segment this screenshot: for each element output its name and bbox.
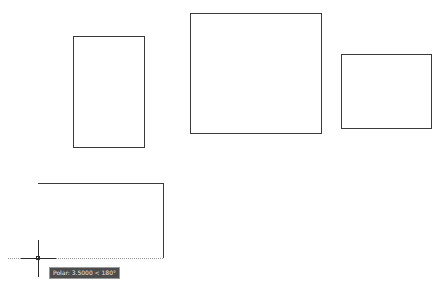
polyline-segment-right[interactable]	[163, 183, 164, 258]
rectangle-3[interactable]	[341, 54, 432, 129]
polyline-segment-top[interactable]	[38, 183, 164, 184]
rectangle-2[interactable]	[190, 13, 322, 134]
rectangle-1[interactable]	[73, 36, 145, 148]
drawing-canvas[interactable]: Polar: 3.5000 < 180°	[0, 0, 437, 290]
polar-tooltip: Polar: 3.5000 < 180°	[49, 267, 120, 279]
crosshair-pickbox	[36, 256, 40, 260]
